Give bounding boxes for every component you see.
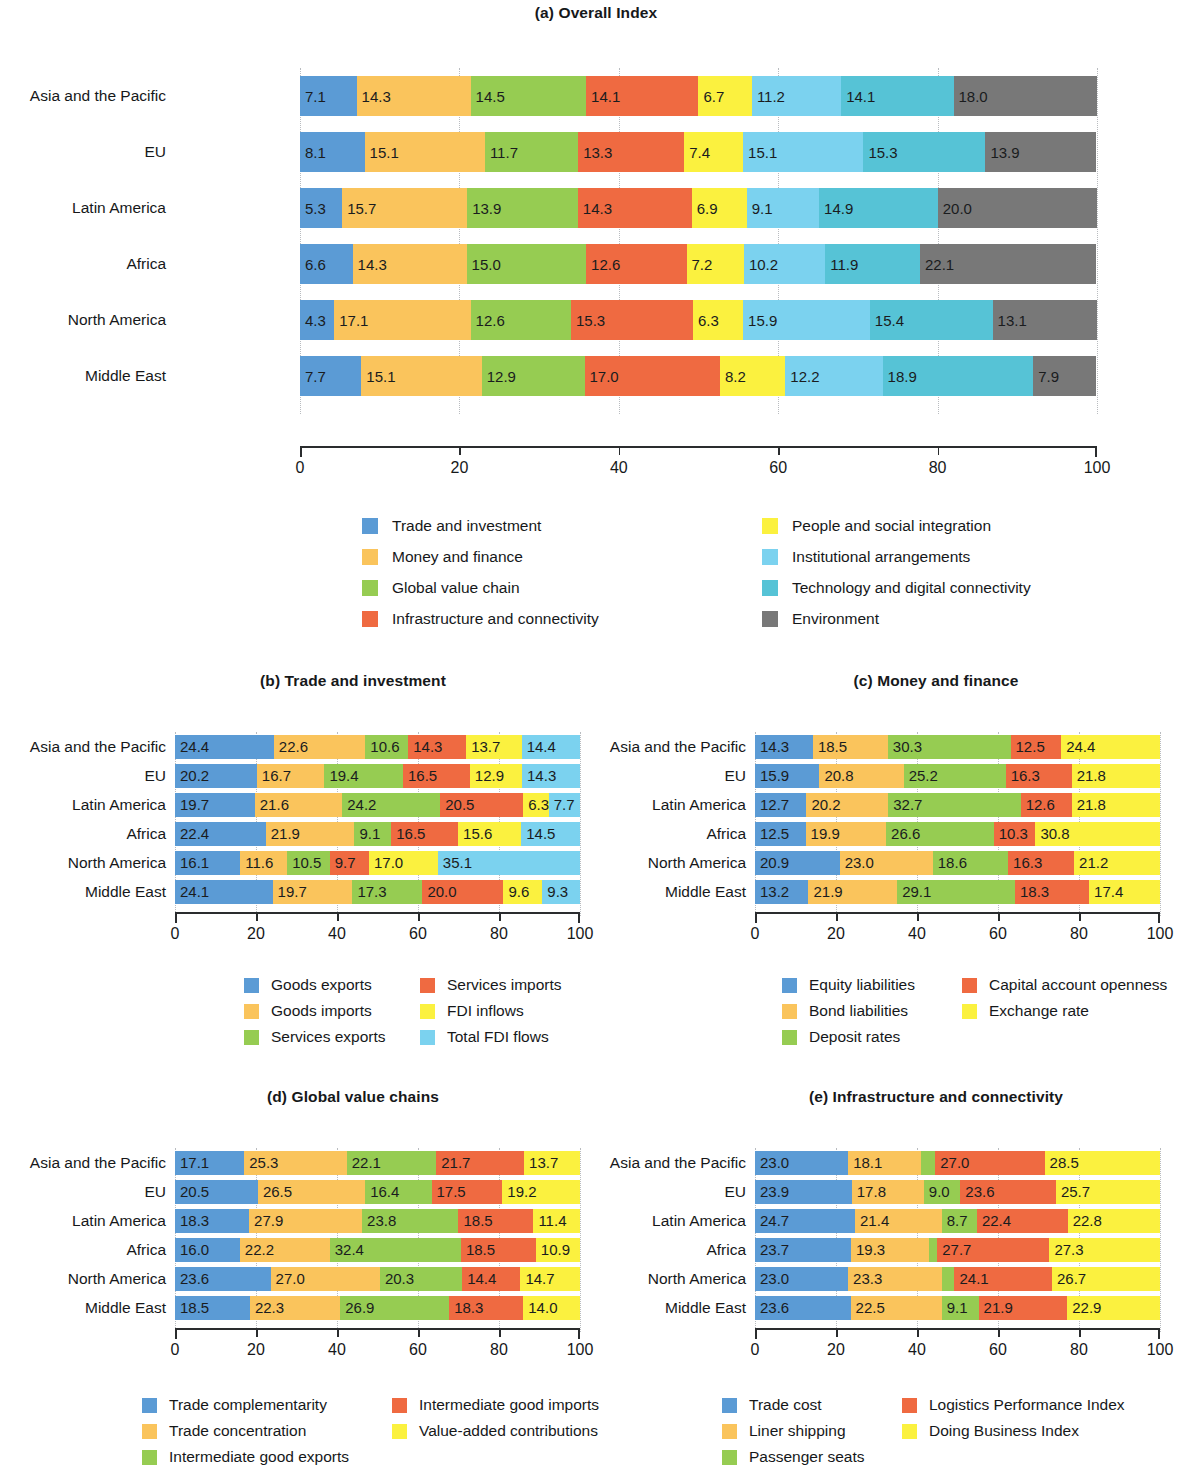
- axis-tick: [499, 912, 501, 921]
- legend-label: Trade cost: [749, 1396, 822, 1414]
- segment-value: 19.4: [324, 768, 358, 783]
- segment-value: 6.3: [693, 313, 719, 328]
- gridline: [1160, 732, 1161, 916]
- stacked-bar: 8.115.111.713.37.415.115.313.9: [300, 132, 1097, 172]
- axis-tick-label: 20: [827, 925, 845, 943]
- bar-segment: 12.5: [755, 822, 806, 846]
- bar-segment: 15.1: [361, 356, 481, 396]
- segment-value: 23.6: [175, 1271, 209, 1286]
- legend-item[interactable]: Goods imports: [244, 998, 420, 1024]
- segment-value: 23.0: [755, 1155, 789, 1170]
- legend-item[interactable]: Passenger seats: [722, 1444, 902, 1467]
- legend-item[interactable]: Infrastructure and connectivity: [362, 603, 762, 634]
- segment-value: 14.1: [841, 89, 875, 104]
- bar-segment: 24.4: [1061, 735, 1160, 759]
- legend-item[interactable]: Institutional arrangements: [762, 541, 1122, 572]
- legend-item[interactable]: Liner shipping: [722, 1418, 902, 1444]
- bar-segment: 22.4: [175, 822, 266, 846]
- legend-label: Intermediate good exports: [169, 1448, 349, 1466]
- bar-segment: 12.6: [471, 300, 571, 340]
- segment-value: 16.5: [403, 768, 437, 783]
- legend-swatch-icon: [362, 611, 378, 627]
- legend-item[interactable]: Intermediate good exports: [142, 1444, 392, 1467]
- legend-item[interactable]: Logistics Performance Index: [902, 1392, 1192, 1418]
- legend-item[interactable]: Services exports: [244, 1024, 420, 1050]
- axis-tick-label: 0: [171, 925, 180, 943]
- segment-value: 14.3: [357, 89, 391, 104]
- legend-item[interactable]: Intermediate good imports: [392, 1392, 642, 1418]
- axis-tick: [256, 912, 258, 921]
- bar-segment: 11.9: [825, 244, 920, 284]
- stacked-bar: 24.422.610.614.313.714.4: [175, 735, 580, 759]
- legend-item[interactable]: Global value chain: [362, 572, 762, 603]
- stacked-bar: 22.421.99.116.515.614.5: [175, 822, 580, 846]
- bar-segment: 14.5: [521, 822, 580, 846]
- legend-item[interactable]: Trade cost: [722, 1392, 902, 1418]
- segment-value: 18.5: [458, 1213, 492, 1228]
- segment-value: 15.1: [361, 369, 395, 384]
- legend-item[interactable]: Deposit rates: [782, 1024, 962, 1050]
- bar-segment: 17.1: [334, 300, 470, 340]
- legend-item[interactable]: FDI inflows: [420, 998, 604, 1024]
- row-label-middle-east: Middle East: [580, 883, 755, 901]
- legend-item[interactable]: Money and finance: [362, 541, 762, 572]
- segment-value: 22.4: [977, 1213, 1011, 1228]
- legend-item[interactable]: People and social integration: [762, 510, 1122, 541]
- legend-item[interactable]: Capital account openness: [962, 972, 1182, 998]
- axis-tick-label: 80: [490, 1341, 508, 1359]
- chart-c-title: (c) Money and finance: [580, 672, 1192, 690]
- bar-segment: 14.3: [408, 735, 466, 759]
- legend-label: Institutional arrangements: [792, 548, 970, 566]
- segment-value: 19.3: [851, 1242, 885, 1257]
- axis-line: [300, 446, 1097, 448]
- legend-item[interactable]: Technology and digital connectivity: [762, 572, 1122, 603]
- segment-value: 7.4: [684, 145, 710, 160]
- legend-item[interactable]: Equity liabilities: [782, 972, 962, 998]
- legend-item[interactable]: Value-added contributions: [392, 1418, 642, 1444]
- bar-segment: 23.8: [362, 1209, 458, 1233]
- legend-label: Value-added contributions: [419, 1422, 598, 1440]
- bar-segment: 10.3: [994, 822, 1036, 846]
- segment-value: 18.3: [1015, 884, 1049, 899]
- chart-row: Latin America19.721.624.220.56.37.7: [0, 790, 580, 819]
- legend-item[interactable]: Trade and investment: [362, 510, 762, 541]
- legend-swatch-icon: [762, 549, 778, 565]
- axis-tick-label: 0: [171, 1341, 180, 1359]
- segment-value: 15.6: [458, 826, 492, 841]
- bar-segment: 17.4: [1089, 880, 1159, 904]
- stacked-bar: 5.315.713.914.36.99.114.920.0: [300, 188, 1097, 228]
- legend-item[interactable]: Services imports: [420, 972, 604, 998]
- axis-tick-label: 40: [908, 1341, 926, 1359]
- segment-value: 15.7: [342, 201, 376, 216]
- segment-value: 9.1: [942, 1300, 968, 1315]
- segment-value: 23.6: [755, 1300, 789, 1315]
- axis-tick: [499, 1328, 501, 1337]
- legend-item[interactable]: Trade complementarity: [142, 1392, 392, 1418]
- segment-value: 10.6: [365, 739, 399, 754]
- legend-item[interactable]: Environment: [762, 603, 1122, 634]
- legend-item[interactable]: Total FDI flows: [420, 1024, 604, 1050]
- segment-value: 18.5: [461, 1242, 495, 1257]
- legend-item[interactable]: Goods exports: [244, 972, 420, 998]
- segment-value: 23.7: [755, 1242, 789, 1257]
- bar-segment: 14.3: [353, 244, 467, 284]
- legend-item[interactable]: Bond liabilities: [782, 998, 962, 1024]
- chart-rows: Asia and the Pacific23.018.127.028.5EU23…: [580, 1148, 1160, 1322]
- chart-row: EU8.115.111.713.37.415.115.313.9: [0, 124, 1097, 180]
- bar-segment: 20.5: [175, 1180, 258, 1204]
- bar-segment: 7.9: [1033, 356, 1096, 396]
- segment-value: 14.4: [522, 739, 556, 754]
- segment-value: 15.0: [467, 257, 501, 272]
- stacked-bar: 13.221.929.118.317.4: [755, 880, 1160, 904]
- segment-value: 24.7: [755, 1213, 789, 1228]
- legend-item[interactable]: Doing Business Index: [902, 1418, 1192, 1444]
- bar-segment: 14.5: [471, 76, 587, 116]
- segment-value: 25.7: [1056, 1184, 1090, 1199]
- legend-item[interactable]: Trade concentration: [142, 1418, 392, 1444]
- legend-swatch-icon: [362, 549, 378, 565]
- bar-segment: 12.6: [586, 244, 686, 284]
- chart-b-title: (b) Trade and investment: [0, 672, 596, 690]
- legend-item[interactable]: Exchange rate: [962, 998, 1182, 1024]
- segment-value: 15.9: [743, 313, 777, 328]
- bar-segment: 13.7: [524, 1151, 579, 1175]
